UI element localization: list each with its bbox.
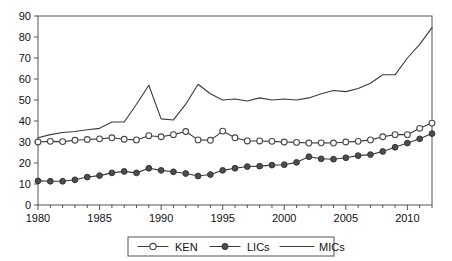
data-point-lics bbox=[72, 177, 78, 183]
legend-marker-lics bbox=[222, 243, 228, 249]
y-axis-tick-labels: 0102030405060708090 bbox=[19, 10, 31, 211]
data-point-lics bbox=[281, 162, 287, 168]
data-point-lics bbox=[306, 154, 312, 160]
data-point-lics bbox=[121, 169, 127, 175]
chart-figure: 0102030405060708090 19801985199019952000… bbox=[0, 0, 452, 261]
y-tick-label: 20 bbox=[19, 157, 31, 169]
data-point-ken bbox=[158, 134, 164, 140]
data-point-lics bbox=[294, 159, 300, 165]
data-point-lics bbox=[60, 178, 66, 184]
data-point-ken bbox=[207, 137, 213, 143]
data-point-ken bbox=[60, 139, 66, 145]
data-point-lics bbox=[47, 178, 53, 184]
y-tick-label: 10 bbox=[19, 178, 31, 190]
data-point-lics bbox=[429, 131, 435, 137]
data-point-ken bbox=[171, 132, 177, 138]
data-point-lics bbox=[257, 163, 263, 169]
data-point-ken bbox=[429, 120, 435, 126]
x-tick-label: 2005 bbox=[334, 212, 358, 224]
data-point-lics bbox=[109, 170, 115, 176]
data-point-ken bbox=[392, 132, 398, 138]
data-point-lics bbox=[417, 136, 423, 142]
x-tick-label: 1990 bbox=[149, 212, 173, 224]
legend-label-ken: KEN bbox=[175, 241, 198, 253]
data-point-ken bbox=[269, 138, 275, 144]
data-point-ken bbox=[232, 135, 238, 141]
data-point-ken bbox=[257, 138, 263, 144]
data-point-lics bbox=[392, 144, 398, 150]
y-tick-label: 40 bbox=[19, 115, 31, 127]
data-point-ken bbox=[97, 136, 103, 142]
data-point-ken bbox=[134, 137, 140, 143]
data-point-ken bbox=[35, 139, 41, 145]
data-point-ken bbox=[318, 140, 324, 146]
data-point-ken bbox=[417, 125, 423, 131]
y-tick-label: 80 bbox=[19, 31, 31, 43]
data-point-ken bbox=[355, 138, 361, 144]
data-point-lics bbox=[368, 152, 374, 158]
y-tick-label: 30 bbox=[19, 136, 31, 148]
legend-marker-ken bbox=[150, 243, 156, 249]
data-point-lics bbox=[232, 165, 238, 171]
data-point-ken bbox=[368, 137, 374, 143]
data-point-lics bbox=[134, 170, 140, 176]
data-point-lics bbox=[343, 155, 349, 161]
data-point-lics bbox=[171, 169, 177, 175]
data-point-ken bbox=[281, 139, 287, 145]
data-point-lics bbox=[220, 167, 226, 173]
data-point-lics bbox=[269, 162, 275, 168]
data-point-ken bbox=[244, 138, 250, 144]
data-point-lics bbox=[84, 174, 90, 180]
data-point-lics bbox=[146, 165, 152, 171]
data-point-lics bbox=[195, 173, 201, 179]
data-point-lics bbox=[404, 140, 410, 146]
data-point-ken bbox=[343, 139, 349, 145]
x-tick-label: 2000 bbox=[272, 212, 296, 224]
data-series-group bbox=[35, 28, 435, 185]
data-point-lics bbox=[355, 153, 361, 159]
data-point-ken bbox=[109, 135, 115, 141]
y-tick-label: 70 bbox=[19, 52, 31, 64]
x-axis-tick-labels: 1980198519901995200020052010 bbox=[26, 212, 420, 224]
x-axis-tick-marks bbox=[38, 205, 432, 210]
data-point-lics bbox=[331, 156, 337, 162]
x-tick-label: 2010 bbox=[395, 212, 419, 224]
legend-label-lics: LICs bbox=[247, 241, 270, 253]
y-tick-label: 50 bbox=[19, 94, 31, 106]
data-point-ken bbox=[331, 140, 337, 146]
series-line-mics bbox=[38, 28, 432, 138]
data-point-ken bbox=[306, 140, 312, 146]
data-point-lics bbox=[318, 156, 324, 162]
y-tick-label: 90 bbox=[19, 10, 31, 22]
x-tick-label: 1995 bbox=[210, 212, 234, 224]
data-point-lics bbox=[97, 173, 103, 179]
data-point-lics bbox=[158, 167, 164, 173]
data-point-lics bbox=[207, 172, 213, 178]
data-point-ken bbox=[146, 133, 152, 139]
data-point-ken bbox=[220, 128, 226, 134]
data-point-lics bbox=[35, 178, 41, 184]
data-point-ken bbox=[195, 137, 201, 143]
data-point-ken bbox=[183, 129, 189, 135]
data-point-ken bbox=[84, 137, 90, 143]
data-point-ken bbox=[47, 138, 53, 144]
data-point-ken bbox=[404, 132, 410, 138]
data-point-lics bbox=[183, 171, 189, 177]
data-point-ken bbox=[72, 137, 78, 143]
x-tick-label: 1980 bbox=[26, 212, 50, 224]
chart-canvas: 0102030405060708090 19801985199019952000… bbox=[0, 0, 452, 261]
legend-label-mics: MICs bbox=[319, 241, 345, 253]
y-axis-tick-marks bbox=[34, 16, 38, 205]
x-tick-label: 1985 bbox=[87, 212, 111, 224]
data-point-ken bbox=[121, 136, 127, 142]
y-tick-label: 60 bbox=[19, 73, 31, 85]
y-tick-label: 0 bbox=[25, 199, 31, 211]
data-point-ken bbox=[294, 140, 300, 146]
data-point-lics bbox=[380, 149, 386, 155]
chart-legend: KENLICsMICs bbox=[128, 237, 345, 256]
data-point-ken bbox=[380, 134, 386, 140]
data-point-lics bbox=[244, 164, 250, 170]
